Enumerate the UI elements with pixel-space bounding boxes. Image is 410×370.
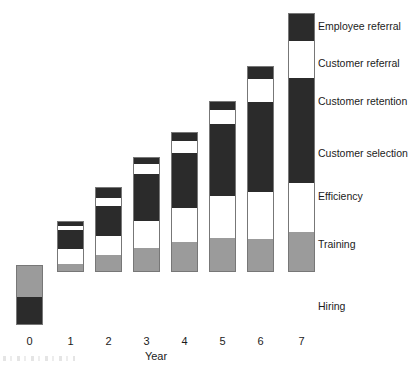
x-axis-title-text: Year [145, 350, 167, 362]
bar-segment-customer-selection[interactable] [133, 174, 160, 221]
bar-segment-employee-referral[interactable] [95, 187, 122, 198]
legend-label-hiring: Hiring [318, 300, 345, 312]
bar-year-0[interactable] [16, 265, 43, 325]
bar-segment-efficiency[interactable] [288, 183, 315, 232]
bar-segment-efficiency[interactable] [57, 249, 84, 264]
bar-segment-employee-referral[interactable] [209, 101, 236, 110]
bar-segment-customer-selection[interactable] [209, 124, 236, 196]
bar-segment-training[interactable] [57, 264, 84, 272]
x-tick-2: 2 [95, 335, 122, 347]
bar-year-3[interactable] [133, 157, 160, 272]
bar-segment-efficiency[interactable] [95, 236, 122, 255]
bar-segment-training[interactable] [247, 239, 274, 272]
x-tick-3: 3 [133, 335, 160, 347]
bar-segment-customer-referral[interactable] [209, 110, 236, 124]
bar-segment-efficiency[interactable] [209, 196, 236, 238]
legend-label-employee-referral: Employee referral [318, 20, 401, 32]
legend-label-customer-retention: Customer retention [318, 95, 407, 107]
bar-segment-efficiency[interactable] [171, 208, 198, 242]
legend-label-customer-selection: Customer selection [318, 147, 408, 159]
bar-segment-customer-referral[interactable] [247, 79, 274, 102]
legend-label-efficiency: Efficiency [318, 190, 363, 202]
bar-segment-efficiency[interactable] [247, 192, 274, 239]
scan-artifact [3, 356, 75, 361]
bar-year-2[interactable] [95, 187, 122, 272]
bar-segment-training[interactable] [171, 242, 198, 272]
bar-segment-training[interactable] [133, 248, 160, 272]
legend-label-training: Training [318, 238, 356, 250]
bar-segment-customer-selection[interactable] [247, 102, 274, 192]
bar-year-6[interactable] [247, 66, 274, 272]
x-tick-4: 4 [171, 335, 198, 347]
x-tick-7: 7 [288, 335, 315, 347]
bar-segment-hiring[interactable] [16, 297, 43, 325]
x-tick-1: 1 [57, 335, 84, 347]
bar-segment-customer-referral[interactable] [133, 164, 160, 174]
stacked-bar-chart: 01234567 Year Employee referralCustomer … [0, 0, 410, 370]
bar-segment-training[interactable] [209, 238, 236, 272]
bar-segment-efficiency[interactable] [133, 221, 160, 248]
bar-segment-training[interactable] [288, 232, 315, 272]
bar-segment-employee-referral[interactable] [247, 66, 274, 79]
x-tick-0: 0 [16, 335, 43, 347]
legend-label-customer-referral: Customer referral [318, 57, 400, 69]
bar-year-1[interactable] [57, 221, 84, 272]
bar-year-5[interactable] [209, 101, 236, 272]
bar-segment-customer-referral[interactable] [171, 141, 198, 153]
bar-segment-employee-referral[interactable] [288, 13, 315, 41]
bar-segment-employee-referral[interactable] [133, 157, 160, 164]
x-tick-6: 6 [247, 335, 274, 347]
bar-segment-training[interactable] [95, 255, 122, 272]
x-tick-5: 5 [209, 335, 236, 347]
bar-segment-training[interactable] [16, 265, 43, 297]
bar-segment-employee-referral[interactable] [171, 132, 198, 141]
bar-year-4[interactable] [171, 132, 198, 272]
bar-segment-customer-selection[interactable] [57, 230, 84, 249]
bar-year-7[interactable] [288, 13, 315, 272]
bar-segment-customer-referral[interactable] [288, 41, 315, 78]
bar-segment-customer-selection[interactable] [95, 206, 122, 236]
bar-segment-customer-referral[interactable] [95, 198, 122, 206]
bar-segment-customer-selection[interactable] [171, 153, 198, 208]
bar-segment-customer-selection[interactable] [288, 78, 315, 183]
